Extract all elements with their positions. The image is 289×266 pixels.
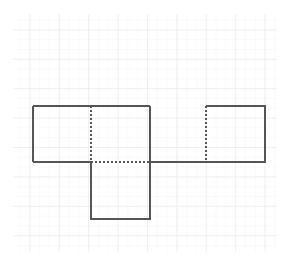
geometry-figure-svg	[0, 0, 289, 266]
figure-root	[0, 0, 289, 266]
graph-paper-grid	[13, 14, 277, 252]
